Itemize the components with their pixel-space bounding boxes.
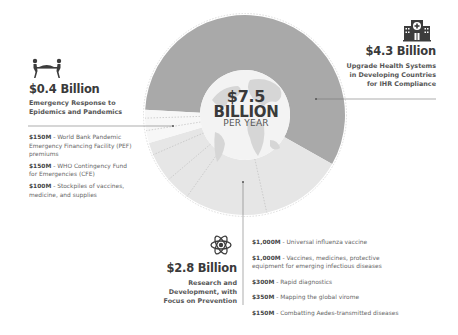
health-title: Upgrade Health Systems in Developing Cou… <box>347 62 436 89</box>
center-label: $7.5 BILLION PER YEAR <box>200 87 292 128</box>
breakdown-item: $100M - Stockpiles of vaccines, medicine… <box>29 182 134 199</box>
rd-connector-dot <box>242 181 244 183</box>
breakdown-item: $150M - Combatting Aedes-transmitted dis… <box>252 309 452 318</box>
health-connector-dot <box>315 98 317 100</box>
hospital-icon <box>403 18 431 42</box>
breakdown-item: $150M - WHO Contingency Fund for Emergen… <box>29 162 134 179</box>
breakdown-item: $300M - Rapid diagnostics <box>252 278 452 287</box>
emergency-title: Emergency Response to Epidemics and Pand… <box>29 99 122 117</box>
stretcher-icon <box>30 58 64 80</box>
breakdown-item: $350M - Mapping the global virome <box>252 293 452 302</box>
breakdown-item: $150M - World Bank Pandemic Emergency Fi… <box>29 133 134 159</box>
breakdown-item: $1,000M - Vaccines, medicines, protectiv… <box>252 254 392 271</box>
rd-title: Research and Development, with Focus on … <box>164 279 237 306</box>
rd-amount: $2.8 Billion <box>166 261 237 275</box>
rd-breakdown: $1,000M - Universal influenza vaccine $1… <box>252 238 452 318</box>
emergency-breakdown: $150M - World Bank Pandemic Emergency Fi… <box>29 133 134 199</box>
breakdown-item: $1,000M - Universal influenza vaccine <box>252 238 452 247</box>
emergency-amount: $0.4 Billion <box>29 82 100 96</box>
emergency-connector-dot <box>172 125 174 127</box>
atom-icon <box>209 233 233 257</box>
health-amount: $4.3 Billion <box>365 44 436 58</box>
